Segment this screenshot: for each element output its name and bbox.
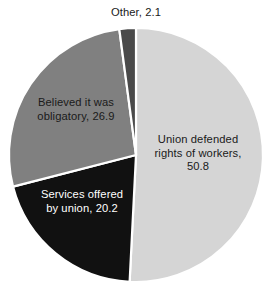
slice-label-other: Other, 2.1 — [72, 6, 200, 20]
slice-label-believed-obligatory: Believed it was obligatory, 26.9 — [18, 96, 134, 123]
pie-chart: Other, 2.1 Union defended rights of work… — [0, 0, 272, 297]
slice-label-services-offered: Services offered by union, 20.2 — [24, 188, 140, 215]
slice-label-union-defended: Union defended rights of workers, 50.8 — [142, 133, 254, 174]
